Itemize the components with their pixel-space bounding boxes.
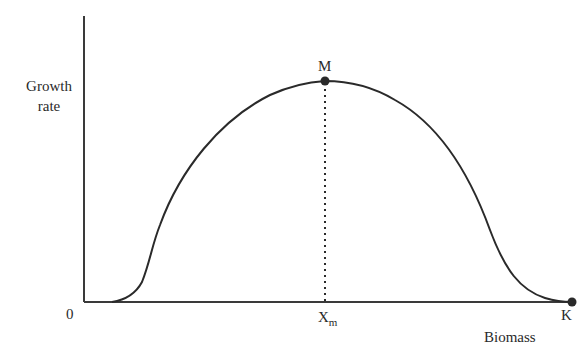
chart-canvas [0, 0, 583, 363]
y-axis-label-line2: rate [18, 96, 80, 116]
xm-tick-label: Xm [318, 310, 337, 328]
k-annotation-label: K [561, 308, 572, 323]
x-axis-label: Biomass [484, 330, 536, 345]
xm-subscript: m [329, 316, 338, 328]
m-annotation-label: M [318, 59, 331, 74]
y-axis-label-line1: Growth [18, 76, 80, 96]
m-point-marker [321, 77, 330, 86]
y-axis-label: Growth rate [18, 76, 80, 116]
k-point-marker [568, 298, 577, 307]
origin-label: 0 [66, 307, 74, 322]
xm-main: X [318, 309, 329, 325]
growth-curve [112, 81, 572, 302]
